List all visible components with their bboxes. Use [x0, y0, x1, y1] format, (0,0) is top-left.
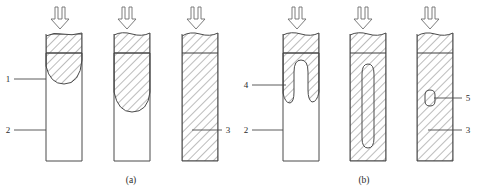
callout-label-3: 3 [226, 125, 231, 135]
callout-label-2b: 2 [244, 125, 249, 135]
group-b [283, 30, 453, 161]
callout-label-4: 4 [244, 80, 249, 90]
technical-diagram: 1 2 3 4 2 5 3 [0, 0, 481, 193]
load-arrow-icon-b2 [354, 7, 372, 29]
callout-label-2: 2 [6, 125, 11, 135]
column-a2[interactable] [114, 30, 150, 161]
callout-2b: 2 [244, 125, 283, 135]
callout-label-3b: 3 [466, 125, 471, 135]
load-arrows [51, 7, 439, 29]
load-arrow-icon-a3 [187, 7, 205, 29]
load-arrow-icon-b1 [288, 7, 306, 29]
column-b2[interactable] [350, 30, 386, 161]
callout-label-5: 5 [466, 93, 471, 103]
load-arrow-icon-a1 [51, 7, 69, 29]
figure-container: 1 2 3 4 2 5 3 [0, 0, 481, 193]
load-arrow-icon-a2 [118, 7, 136, 29]
caption-b: (b) [358, 175, 369, 186]
callout-label-1: 1 [6, 74, 11, 84]
load-arrow-icon-b3 [421, 7, 439, 29]
column-b3[interactable] [417, 30, 453, 161]
callout-2: 2 [6, 125, 46, 135]
callout-1: 1 [6, 74, 46, 84]
column-b1[interactable] [283, 30, 319, 161]
column-a1[interactable] [46, 33, 82, 161]
column-a3[interactable] [182, 30, 218, 161]
callout-4: 4 [244, 80, 286, 90]
caption-a: (a) [126, 175, 137, 186]
group-a [46, 30, 218, 161]
captions: (a) (b) [126, 175, 370, 186]
